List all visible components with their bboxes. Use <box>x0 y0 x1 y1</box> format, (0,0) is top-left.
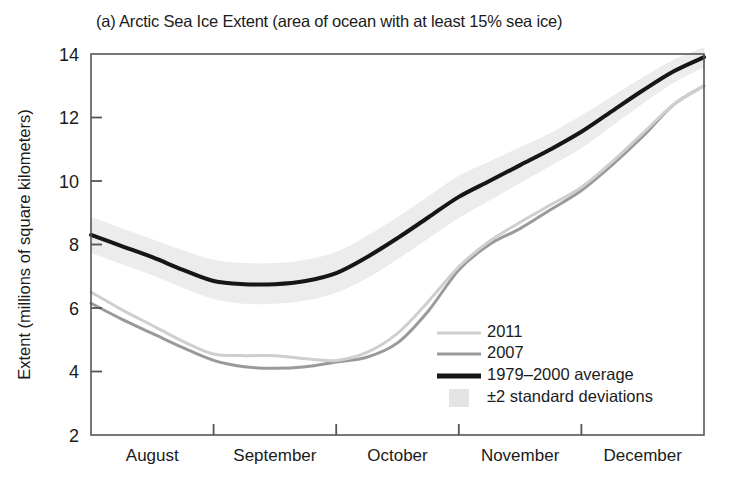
figure-panel-a: (a) Arctic Sea Ice Extent (area of ocean… <box>0 0 737 491</box>
legend-label: ±2 standard deviations <box>487 387 653 405</box>
x-tick-label: September <box>233 446 316 465</box>
legend-label: 1979–2000 average <box>487 365 634 383</box>
y-tick-label: 6 <box>69 299 79 319</box>
chart-legend: 201120071979–2000 average±2 standard dev… <box>437 322 653 407</box>
std-deviation-band <box>91 48 704 304</box>
x-tick-label: November <box>481 446 560 465</box>
y-tick-label: 2 <box>69 426 79 446</box>
x-tick-label: December <box>603 446 682 465</box>
y-axis-label: Extent (millions of square kilometers) <box>15 109 33 380</box>
band-area <box>91 48 704 304</box>
legend-swatch <box>449 389 469 407</box>
legend-label: 2007 <box>487 343 524 361</box>
y-tick-label: 10 <box>59 172 79 192</box>
y-tick-label: 8 <box>69 235 79 255</box>
y-axis-ticks: 2468101214 <box>59 45 102 446</box>
chart-svg: 2468101214 AugustSeptemberOctoberNovembe… <box>0 0 737 491</box>
x-tick-label: October <box>367 446 428 465</box>
y-tick-label: 12 <box>59 108 79 128</box>
y-axis-title: Extent (millions of square kilometers) <box>15 109 33 380</box>
y-tick-label: 4 <box>69 362 79 382</box>
legend-label: 2011 <box>487 322 522 340</box>
x-tick-label: August <box>126 446 179 465</box>
y-tick-label: 14 <box>59 45 79 65</box>
x-axis-ticks: AugustSeptemberOctoberNovemberDecember <box>126 424 682 465</box>
